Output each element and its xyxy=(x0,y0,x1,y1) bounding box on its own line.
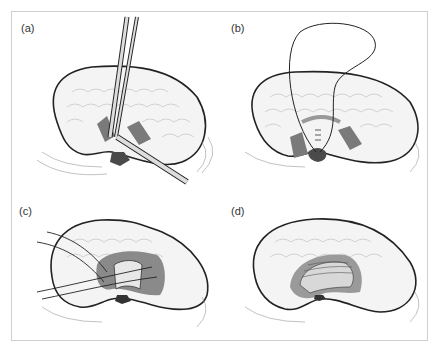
panel-d: (d) xyxy=(220,177,429,342)
panel-a: (a) xyxy=(12,12,220,177)
illustration-b xyxy=(220,12,429,177)
illustration-c xyxy=(12,177,220,342)
panel-b: (b) xyxy=(220,12,429,177)
panel-c: (c) xyxy=(12,177,220,342)
illustration-a xyxy=(12,12,220,177)
figure-frame: (a) (b) xyxy=(11,11,428,341)
illustration-d xyxy=(220,177,429,342)
